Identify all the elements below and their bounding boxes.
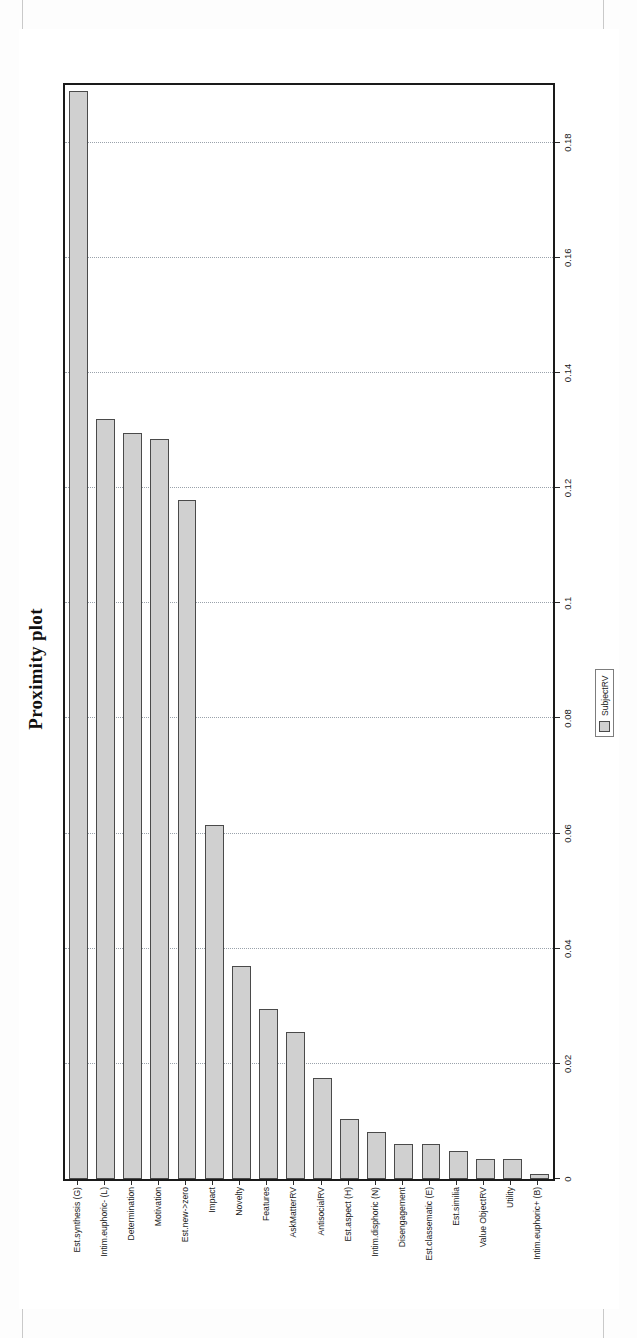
bar	[475, 1159, 494, 1179]
bar	[123, 433, 142, 1179]
bar	[258, 1009, 277, 1179]
value-axis-tick	[555, 142, 560, 143]
category-axis-tick	[293, 1181, 294, 1185]
bar	[177, 500, 196, 1179]
value-axis-tick	[555, 487, 560, 488]
chart-figure: Proximity plot 00.020.040.060.080.10.120…	[19, 29, 619, 1309]
bar	[313, 1078, 332, 1179]
bar-series	[65, 85, 553, 1179]
category-axis-tick	[185, 1181, 186, 1185]
value-axis-tick-label: 0.04	[562, 939, 573, 958]
value-axis-tick-label: 0.02	[562, 1055, 573, 1074]
bar	[231, 966, 250, 1179]
category-axis-label: Intim.euphoric+ (B)	[532, 1187, 542, 1260]
category-axis-label: Motivation	[152, 1187, 162, 1226]
category-axis-label: Est.synthesis (G)	[71, 1187, 81, 1252]
category-axis-tick	[130, 1181, 131, 1185]
legend-entry-label: SubjectRV	[599, 676, 609, 716]
category-axis-label: Disengagement	[396, 1187, 406, 1247]
category-axis-label: Est.new->zero	[180, 1187, 190, 1242]
category-axis-label: Intim.euphoric- (L)	[98, 1187, 108, 1257]
value-axis-tick	[555, 372, 560, 373]
category-axis-label: AntisocialRV	[315, 1187, 325, 1236]
bar	[340, 1119, 359, 1179]
value-axis-tick-label: 0.18	[562, 133, 573, 152]
bar	[421, 1144, 440, 1179]
plot-area	[63, 83, 555, 1181]
category-axis-tick	[456, 1181, 457, 1185]
category-axis-tick	[374, 1181, 375, 1185]
category-axis-label: Value ObjectRV	[478, 1187, 488, 1247]
bar	[150, 439, 169, 1179]
category-axis-tick	[239, 1181, 240, 1185]
value-axis-tick	[555, 1063, 560, 1064]
category-axis-tick	[266, 1181, 267, 1185]
value-axis-tick-label: 0.08	[562, 709, 573, 728]
category-axis-label: Determination	[125, 1187, 135, 1241]
category-axis-tick	[483, 1181, 484, 1185]
category-axis: Est.synthesis (G)Intim.euphoric- (L)Dete…	[63, 1181, 555, 1309]
bar	[394, 1144, 413, 1179]
category-axis-tick	[103, 1181, 104, 1185]
category-axis-label: Est.similia	[451, 1187, 461, 1226]
category-axis-tick	[401, 1181, 402, 1185]
category-axis-tick	[537, 1181, 538, 1185]
scanned-page: Proximity plot 00.020.040.060.080.10.120…	[0, 0, 637, 1338]
chart-title: Proximity plot	[25, 29, 47, 1309]
value-axis-tick	[555, 602, 560, 603]
bar	[448, 1151, 467, 1179]
value-axis-tick-label: 0.16	[562, 249, 573, 268]
category-axis-tick	[212, 1181, 213, 1185]
category-axis-label: Impact	[207, 1187, 217, 1213]
value-axis-tick	[555, 257, 560, 258]
category-axis-label: Utility	[505, 1187, 515, 1208]
bar	[285, 1032, 304, 1179]
value-axis-tick-label: 0.14	[562, 364, 573, 383]
category-axis-tick	[429, 1181, 430, 1185]
bar	[204, 825, 223, 1179]
category-axis-label: Features	[261, 1187, 271, 1221]
category-axis-tick	[510, 1181, 511, 1185]
category-axis-label: AskMatterRV	[288, 1187, 298, 1237]
series-swatch-icon	[599, 721, 610, 732]
chart-legend: SubjectRV	[595, 669, 614, 737]
category-axis-label: Novelty	[234, 1187, 244, 1216]
bar	[69, 91, 88, 1179]
value-axis-tick-label: 0	[562, 1176, 573, 1181]
category-axis-label: Est.aspect (H)	[342, 1187, 352, 1241]
value-axis-tick-label: 0.12	[562, 479, 573, 498]
category-axis-label: Est.classematic (E)	[424, 1187, 434, 1261]
value-axis-tick	[555, 833, 560, 834]
value-axis-tick-label: 0.06	[562, 824, 573, 843]
category-axis-tick	[347, 1181, 348, 1185]
category-axis-tick	[320, 1181, 321, 1185]
bar	[502, 1159, 521, 1179]
value-axis-tick	[555, 717, 560, 718]
category-axis-tick	[157, 1181, 158, 1185]
value-axis-tick-label: 0.1	[562, 597, 573, 610]
category-axis-tick	[76, 1181, 77, 1185]
bar	[367, 1132, 386, 1179]
category-axis-label: Intim.disphoric (N)	[369, 1187, 379, 1257]
value-axis-tick	[555, 1178, 560, 1179]
bar	[529, 1174, 548, 1179]
value-axis: 00.020.040.060.080.10.120.140.160.18	[555, 83, 589, 1181]
value-axis-tick	[555, 948, 560, 949]
bar	[96, 419, 115, 1179]
